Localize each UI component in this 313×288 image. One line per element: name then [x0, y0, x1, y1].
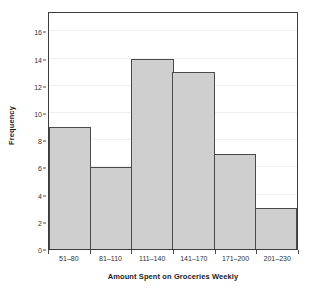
y-axis-tick-mark [43, 59, 46, 60]
y-axis-tick-label: 16 [34, 29, 42, 36]
histogram-bar [172, 72, 214, 249]
x-axis-tick-mark [298, 250, 299, 254]
x-axis-tick-mark [131, 250, 132, 254]
y-axis-tick-mark [43, 168, 46, 169]
y-axis-tick-mark [43, 32, 46, 33]
y-axis-tick-label: 2 [38, 219, 42, 226]
x-axis-tick-mark [48, 250, 49, 254]
x-axis-tick-mark [256, 250, 257, 254]
y-axis-tick-label: 0 [38, 247, 42, 254]
x-axis-tick-mark [90, 250, 91, 254]
y-axis-tick-label: 10 [34, 111, 42, 118]
plot-area [48, 12, 298, 250]
x-axis-tick-label: 111–140 [131, 255, 173, 267]
y-axis-tick-label: 8 [38, 138, 42, 145]
x-axis-tick-label: 81–110 [90, 255, 132, 267]
histogram-bar [49, 127, 91, 249]
y-axis-tick-label: 4 [38, 192, 42, 199]
y-axis-tick-label: 12 [34, 83, 42, 90]
histogram-bar [214, 154, 256, 249]
x-axis-tick-mark [215, 250, 216, 254]
x-axis-tick-label: 201–230 [256, 255, 298, 267]
histogram-figure: Frequency 0246810121416 51–8081–110111–1… [0, 0, 313, 288]
y-axis-tick-mark [43, 141, 46, 142]
histogram-bar [255, 208, 297, 249]
y-axis-tick-mark [43, 114, 46, 115]
y-axis-tick-mark [43, 86, 46, 87]
x-axis-tick-label: 171–200 [215, 255, 257, 267]
y-axis-tick-labels: 0246810121416 [22, 12, 46, 250]
y-axis-tick-mark [43, 250, 46, 251]
y-axis-title-text: Frequency [7, 106, 16, 145]
x-axis-tick-mark [173, 250, 174, 254]
histogram-bar [90, 167, 132, 249]
x-axis-tick-labels: 51–8081–110111–140141–170171–200201–230 [48, 255, 298, 267]
y-axis-tick-label: 14 [34, 56, 42, 63]
x-axis-tick-label: 141–170 [173, 255, 215, 267]
y-axis-title: Frequency [0, 0, 22, 250]
y-axis-tick-mark [43, 222, 46, 223]
y-axis-tick-label: 6 [38, 165, 42, 172]
y-axis-tick-mark [43, 195, 46, 196]
x-axis-title: Amount Spent on Groceries Weekly [48, 272, 298, 281]
bar-series [49, 13, 297, 249]
histogram-bar [131, 59, 173, 249]
x-axis-tick-label: 51–80 [48, 255, 90, 267]
